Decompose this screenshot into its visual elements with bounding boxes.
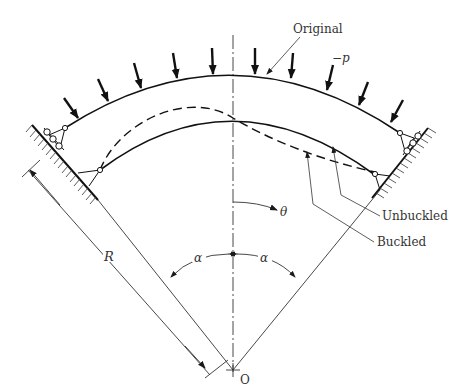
- radius-extension-bottom: [205, 360, 228, 378]
- right-radial-line: [233, 190, 380, 370]
- center-label: O: [240, 373, 250, 387]
- radius-label: R: [103, 249, 114, 264]
- original-arch-outer: [65, 75, 400, 133]
- buckled-shape: [100, 107, 375, 172]
- original-label: Original: [293, 22, 343, 36]
- center-point-O: [226, 363, 240, 377]
- alpha-right-label: α: [260, 251, 268, 265]
- radius-extension-top: [22, 160, 40, 177]
- left-radial-line: [98, 200, 233, 370]
- buckled-label: Buckled: [377, 235, 426, 249]
- unbuckled-arch: [100, 121, 375, 175]
- right-support-wall: [372, 128, 436, 198]
- load-arrow: [98, 79, 108, 101]
- unbuckled-leader: [341, 195, 380, 216]
- load-arrow: [173, 53, 177, 78]
- buckled-leader-arrow: [307, 152, 313, 204]
- arch-buckling-diagram: O: [0, 0, 455, 388]
- left-pin-support: [78, 167, 103, 186]
- unbuckled-leader-arrow: [333, 147, 341, 195]
- theta-label: θ: [280, 205, 288, 219]
- pressure-load-arrows: [64, 48, 403, 122]
- load-arrow: [64, 98, 78, 118]
- load-arrow: [359, 82, 368, 105]
- radius-dim-arrow-bottom: [185, 346, 205, 368]
- unbuckled-label: Unbuckled: [382, 209, 448, 223]
- theta-arrow: [233, 202, 277, 210]
- alpha-left-label: α: [194, 251, 202, 265]
- load-arrow: [391, 100, 403, 122]
- pressure-label: −p: [332, 51, 350, 65]
- load-arrow: [291, 53, 293, 78]
- left-roller-support: [44, 125, 68, 150]
- load-arrow: [327, 65, 333, 90]
- load-arrow: [212, 48, 213, 74]
- buckled-leader: [313, 204, 374, 242]
- load-arrow: [134, 63, 141, 88]
- radius-dim-arrow-top: [30, 170, 60, 205]
- radius-dimension-line: [28, 170, 210, 375]
- left-support-wall: [26, 125, 98, 204]
- original-leader: [267, 37, 300, 74]
